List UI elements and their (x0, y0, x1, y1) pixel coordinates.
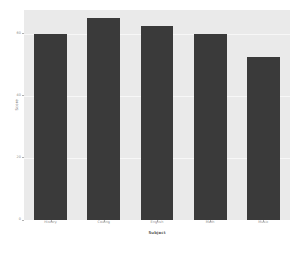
bar (34, 34, 67, 220)
y-tick-label: 60 (16, 32, 21, 35)
y-tick-mark (22, 95, 24, 96)
bar (194, 34, 227, 220)
bar (247, 57, 280, 220)
y-tick: 20 (16, 154, 24, 162)
y-tick-mark (22, 33, 24, 34)
x-axis-label: Subject (24, 231, 290, 235)
bar (87, 18, 120, 220)
x-tick-label: Coding (77, 221, 130, 224)
y-tick-mark (22, 157, 24, 158)
bar-series (24, 10, 290, 220)
x-tick-label: Math (184, 221, 237, 224)
plot-panel (24, 10, 290, 220)
y-axis-label: Score (15, 90, 19, 120)
y-tick-label: 20 (16, 156, 21, 159)
y-axis-ticks: 0204060 (0, 0, 24, 253)
y-tick-label: 0 (19, 218, 21, 221)
x-tick-label: English (130, 221, 183, 224)
bar-chart-figure: 0204060 Score HistoryCodingEnglishMathMu… (0, 0, 301, 253)
x-tick-label: Music (237, 221, 290, 224)
bar (141, 26, 174, 220)
y-tick: 60 (16, 30, 24, 38)
x-tick-label: History (24, 221, 77, 224)
